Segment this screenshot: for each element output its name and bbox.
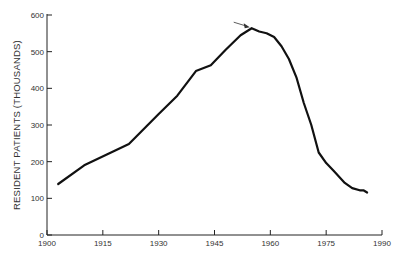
y-tick-label: 400 <box>31 84 45 93</box>
x-axis: 1900191519301945196019751990 <box>38 230 391 248</box>
y-tick-label: 300 <box>31 121 45 130</box>
peak-arrow-annotation <box>234 22 250 28</box>
x-tick-label: 1900 <box>38 239 56 248</box>
data-line <box>58 28 367 192</box>
y-axis: 0100200300400500600 <box>31 11 52 240</box>
y-axis-label: RESIDENT PATIENTS (THOUSANDS) <box>11 40 22 210</box>
y-tick-label: 200 <box>31 158 45 167</box>
x-tick-label: 1930 <box>150 239 168 248</box>
y-tick-label: 500 <box>31 48 45 57</box>
line-chart: 0100200300400500600 19001915193019451960… <box>0 0 399 258</box>
y-tick-label: 600 <box>31 11 45 20</box>
x-tick-label: 1945 <box>206 239 224 248</box>
y-tick-label: 100 <box>31 194 45 203</box>
x-tick-label: 1915 <box>94 239 112 248</box>
x-tick-label: 1990 <box>373 239 391 248</box>
x-tick-label: 1975 <box>317 239 335 248</box>
x-tick-label: 1960 <box>261 239 279 248</box>
